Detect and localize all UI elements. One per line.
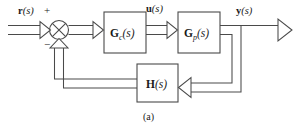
plant-block-arg: (s)	[197, 27, 209, 40]
plant-block-name: G	[184, 27, 193, 39]
feedback-block-label: H(s)	[146, 78, 167, 91]
minus-sign-label: −	[44, 38, 50, 50]
block-diagram-figure: + − r(s) u(s) y(s) Gc(s) Gp(s) H(s) (a)	[0, 0, 301, 126]
error-wire	[69, 22, 104, 39]
output-wire	[220, 19, 292, 70]
control-signal-label: u(s)	[146, 3, 163, 15]
figure-caption: (a)	[143, 111, 154, 123]
output-signal-arg: (s)	[241, 5, 253, 17]
feedback-block-arg: (s)	[155, 78, 167, 91]
control-signal-wire	[146, 22, 178, 39]
feedback-sense-wire	[179, 70, 242, 98]
controller-block-arg: (s)	[123, 27, 135, 40]
reference-signal-label: r(s)	[18, 5, 34, 17]
control-signal-arg: (s)	[152, 3, 164, 15]
plus-sign-label: +	[44, 4, 50, 16]
output-signal-label: y(s)	[236, 5, 253, 17]
reference-input-wire	[8, 22, 51, 39]
feedback-block-name: H	[146, 78, 155, 90]
controller-block-name: G	[110, 27, 119, 39]
reference-signal-arg: (s)	[23, 5, 35, 17]
block-diagram-canvas: + − r(s) u(s) y(s) Gc(s) Gp(s) H(s) (a)	[0, 0, 301, 126]
